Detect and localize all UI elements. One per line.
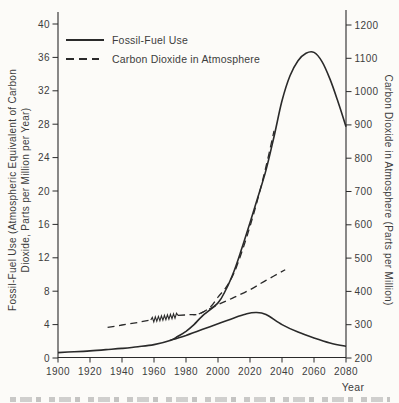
co2-atmosphere-observed-curve — [108, 320, 151, 327]
right-y-tick-label: 800 — [355, 153, 373, 164]
left-y-tick-label: 32 — [38, 85, 50, 96]
left-y-axis-title: Fossil-Fuel Use (Atmospheric Equivalent … — [6, 5, 32, 375]
x-tick-label: 2020 — [238, 366, 262, 377]
legend-label: Fossil-Fuel Use — [112, 34, 188, 46]
left-y-tick-label: 8 — [44, 286, 50, 297]
x-tick-label: 1900 — [46, 366, 70, 377]
x-tick-label: 1980 — [174, 366, 198, 377]
right-y-tick-label: 1200 — [355, 20, 379, 31]
left-y-tick-label: 24 — [38, 152, 50, 163]
dashed-line-sample — [66, 58, 104, 60]
right-y-axis-title: Carbon Dioxide in Atmosphere (Parts per … — [380, 5, 394, 375]
x-tick-label: 2040 — [270, 366, 294, 377]
solid-line-sample — [66, 39, 104, 41]
fossil-fuel-use-high-growth-curve — [58, 52, 346, 353]
co2-atmosphere-reduced-growth-curve — [199, 270, 285, 314]
x-tick-label: 1960 — [142, 366, 166, 377]
legend-item-carbon-dioxide: Carbon Dioxide in Atmosphere — [66, 49, 260, 68]
left-y-tick-label: 0 — [44, 353, 50, 364]
left-y-tick-label: 12 — [38, 252, 50, 263]
figure-fossil-fuel-co2-chart: 1900192019401960198020002020204020602080… — [0, 0, 399, 403]
legend-label: Carbon Dioxide in Atmosphere — [112, 53, 260, 65]
left-y-tick-label: 4 — [44, 319, 50, 330]
x-tick-label: 2000 — [206, 366, 230, 377]
cropped-caption-text — [10, 397, 390, 402]
right-y-tick-label: 400 — [355, 286, 373, 297]
right-y-tick-label: 1100 — [355, 53, 378, 64]
left-y-tick-label: 16 — [38, 219, 50, 230]
left-y-tick-label: 36 — [38, 52, 50, 63]
right-y-tick-label: 300 — [355, 319, 373, 330]
left-y-tick-label: 28 — [38, 119, 50, 130]
co2-atmosphere-observed-oscillation-curve — [151, 313, 178, 322]
left-y-tick-label: 40 — [38, 19, 50, 30]
left-y-tick-label: 20 — [38, 186, 50, 197]
right-y-tick-label: 500 — [355, 253, 373, 264]
right-y-tick-label: 700 — [355, 186, 373, 197]
fossil-fuel-use-reduced-growth-curve — [170, 312, 346, 346]
x-tick-label: 2080 — [334, 366, 358, 377]
legend: Fossil-Fuel Use Carbon Dioxide in Atmosp… — [66, 30, 260, 68]
left-y-axis-title-line1: Fossil-Fuel Use (Atmospheric Equivalent … — [6, 5, 19, 375]
x-axis-title: Year — [337, 381, 369, 393]
left-y-axis-title-line2: Dioxide, Parts per Million per Year) — [19, 5, 32, 375]
right-y-tick-label: 600 — [355, 219, 373, 230]
legend-item-fossil-fuel-use: Fossil-Fuel Use — [66, 30, 260, 49]
right-y-tick-label: 1000 — [355, 86, 379, 97]
x-tick-label: 2060 — [302, 366, 326, 377]
x-tick-label: 1940 — [110, 366, 134, 377]
x-tick-label: 1920 — [78, 366, 102, 377]
right-y-tick-label: 200 — [355, 353, 373, 364]
co2-atmosphere-high-growth-curve — [178, 131, 274, 316]
right-y-tick-label: 900 — [355, 119, 373, 130]
